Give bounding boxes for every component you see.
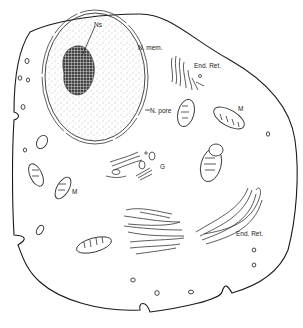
label-er-bottom: End. Ret. bbox=[236, 230, 263, 237]
label-nuclear-pore: N. pore bbox=[150, 107, 172, 115]
label-nuclear-membrane: N. mem. bbox=[138, 44, 163, 51]
mitochondrion bbox=[25, 162, 46, 189]
label-er-top: End. Ret. bbox=[194, 62, 221, 69]
figure-caption bbox=[0, 318, 303, 328]
endoplasmic-reticulum-center bbox=[124, 209, 184, 254]
golgi-apparatus bbox=[106, 152, 155, 180]
label-golgi: G bbox=[160, 163, 165, 170]
label-mito-left: M bbox=[72, 188, 77, 195]
nucleolus bbox=[63, 46, 95, 95]
mitochondrion-m bbox=[52, 175, 74, 202]
label-nucleolus: Ns bbox=[94, 21, 103, 28]
label-mito-right: M bbox=[238, 105, 243, 112]
mitochondrion bbox=[175, 97, 198, 128]
mitochondrion bbox=[34, 133, 50, 150]
mitochondrion bbox=[75, 234, 113, 257]
nucleus bbox=[42, 10, 150, 144]
cell-diagram: Ns N. mem. N. pore End. Ret. End. Ret. M… bbox=[0, 0, 303, 328]
mitochondrion bbox=[209, 144, 223, 156]
